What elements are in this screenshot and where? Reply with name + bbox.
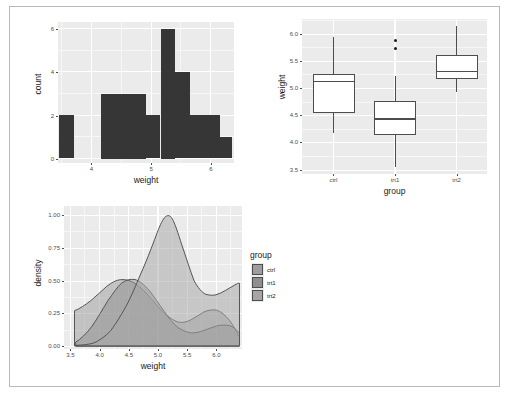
histogram-bar [161, 29, 176, 159]
density-legend-label-ctrl: ctrl [267, 267, 275, 273]
histogram-plot-area [58, 22, 234, 163]
density-x-tick-4: 5.5 [176, 352, 198, 358]
boxplot-y-tick-4: 5.5 [276, 58, 298, 64]
density-x-tickmark-6p0 [216, 349, 217, 351]
boxplot-whisker-upper-trt1 [395, 76, 396, 101]
boxplot-box-ctrl [313, 74, 355, 113]
histogram-gridline-y-6 [58, 28, 234, 29]
histogram-bar [220, 137, 232, 159]
boxplot-x-tick-ctrl: ctrl [318, 177, 348, 183]
histogram-x-tick-2: 6 [201, 166, 221, 172]
density-y-tick-4: 1.00 [34, 212, 60, 218]
density-x-tickmark-5p0 [158, 349, 159, 351]
boxplot-outlier-trt1 [394, 39, 397, 42]
density-x-tick-2: 4.5 [118, 352, 140, 358]
histogram-gridline-y-5 [58, 50, 234, 51]
boxplot-whisker-lower-trt1 [395, 135, 396, 167]
boxplot-x-axis-title: group [302, 186, 487, 196]
density-x-tickmark-4p0 [100, 349, 101, 351]
boxplot-y-tick-3: 5.0 [276, 85, 298, 91]
boxplot-y-tick-2: 4.5 [276, 112, 298, 118]
density-x-tick-1: 4.0 [89, 352, 111, 358]
boxplot-y-tick-5: 6.0 [276, 31, 298, 37]
histogram-panel: count 0 2 4 6 [28, 14, 243, 192]
histogram-gridline-y-3 [58, 93, 234, 94]
histogram-y-tick-3: 6 [40, 26, 54, 32]
density-legend-label-trt2: trt2 [267, 293, 276, 299]
density-x-tickmark-3p5 [70, 349, 71, 351]
histogram-gridline-x-4 [91, 22, 92, 163]
density-legend-key-trt2[interactable] [251, 289, 264, 302]
density-plot-area [64, 206, 242, 349]
boxplot-whisker-lower-trt2 [456, 79, 457, 91]
histogram-x-tickmark-4 [91, 163, 92, 165]
histogram-x-tickmark-5 [151, 163, 152, 165]
boxplot-whisker-upper-ctrl [333, 37, 334, 74]
histogram-x-tickmark-6 [211, 163, 212, 165]
density-legend: group ctrl trt1 trt2 [250, 250, 290, 312]
density-curves [64, 206, 242, 349]
boxplot-median-ctrl [313, 81, 355, 83]
density-y-tick-0: 0.00 [34, 343, 60, 349]
figure-canvas: count 0 2 4 6 [0, 0, 509, 396]
density-legend-swatch-trt2 [252, 290, 263, 301]
boxplot-whisker-lower-ctrl [333, 113, 334, 133]
boxplot-x-tick-trt1: trt1 [380, 177, 410, 183]
density-y-tick-2: 0.50 [34, 278, 60, 284]
density-x-tickmark-5p5 [187, 349, 188, 351]
boxplot-x-tickmark-trt2 [457, 174, 458, 176]
density-y-tick-1: 0.25 [34, 310, 60, 316]
histogram-bar [146, 115, 161, 158]
boxplot-x-tickmark-trt1 [395, 174, 396, 176]
histogram-x-tick-0: 4 [81, 166, 101, 172]
histogram-y-tick-1: 2 [40, 113, 54, 119]
boxplot-whisker-upper-trt2 [456, 26, 457, 55]
histogram-bar [190, 115, 220, 158]
boxplot-median-trt1 [374, 118, 416, 120]
density-x-tick-5: 6.0 [205, 352, 227, 358]
boxplot-panel: weight 3.5 4.0 4.5 5.0 5.5 6.0 [272, 14, 487, 200]
density-panel: density 0.00 0.25 0.50 0.75 1.00 [28, 198, 288, 383]
density-legend-swatch-trt1 [252, 277, 263, 288]
density-x-tick-3: 5.0 [147, 352, 169, 358]
histogram-y-tick-2: 4 [40, 69, 54, 75]
density-legend-key-trt1[interactable] [251, 276, 264, 289]
histogram-gridline-y-4 [58, 71, 234, 72]
density-legend-label-trt1: trt1 [267, 280, 276, 286]
boxplot-x-tickmark-ctrl [333, 174, 334, 176]
boxplot-outlier-trt1 [394, 47, 397, 50]
histogram-y-tick-0: 0 [40, 156, 54, 162]
histogram-x-tick-1: 5 [141, 166, 161, 172]
density-legend-key-ctrl[interactable] [251, 263, 264, 276]
boxplot-x-tick-trt2: trt2 [442, 177, 472, 183]
histogram-x-axis-title: weight [58, 175, 234, 185]
density-x-tickmark-4p5 [129, 349, 130, 351]
density-x-axis-title: weight [64, 361, 242, 371]
boxplot-plot-area [302, 19, 487, 174]
histogram-y-axis-title: count [33, 54, 43, 114]
boxplot-median-trt2 [436, 71, 478, 73]
histogram-bar [59, 115, 74, 158]
boxplot-y-tick-1: 4.0 [276, 139, 298, 145]
boxplot-y-tick-0: 3.5 [276, 167, 298, 173]
histogram-bar [175, 72, 190, 159]
histogram-bar [101, 94, 146, 159]
density-x-tick-0: 3.5 [59, 352, 81, 358]
density-legend-title: group [250, 250, 272, 260]
density-y-tick-3: 0.75 [34, 245, 60, 251]
density-legend-swatch-ctrl [252, 264, 263, 275]
boxplot-box-trt2 [436, 55, 478, 79]
